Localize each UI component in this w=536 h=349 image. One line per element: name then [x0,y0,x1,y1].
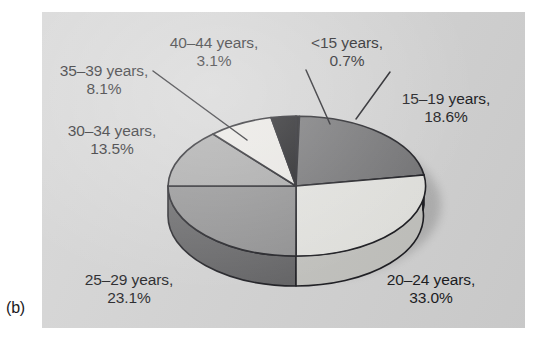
pie-label-25-29-line1: 25–29 years, [85,271,173,288]
pie-label-20-24-line1: 20–24 years, [387,271,475,288]
pie-slice-15-19 [296,116,424,186]
pie-label-25-29: 25–29 years, 23.1% [65,271,193,306]
pie-label-lt15: <15 years, 0.7% [285,34,409,69]
figure-page: 40–44 years, 3.1% <15 years, 0.7% 35–39 … [0,0,536,349]
pie-label-35-39: 35–39 years, 8.1% [40,62,168,97]
chart-panel: 40–44 years, 3.1% <15 years, 0.7% 35–39 … [42,12,525,328]
pie-label-lt15-line2: 0.7% [285,52,409,70]
pie-label-30-34: 30–34 years, 13.5% [48,122,176,157]
pie-top-face [168,116,426,256]
pie-label-40-44-line1: 40–44 years, [170,34,258,51]
pie-label-20-24: 20–24 years, 33.0% [367,271,495,306]
pie-label-15-19-line1: 15–19 years, [402,90,490,107]
pie-label-15-19-line2: 18.6% [382,108,510,126]
pie-label-35-39-line2: 8.1% [40,80,168,98]
pie-label-20-24-line2: 33.0% [367,289,495,307]
pie-label-25-29-line2: 23.1% [65,289,193,307]
pie-label-15-19: 15–19 years, 18.6% [382,90,510,125]
pie-label-35-39-line1: 35–39 years, [60,62,148,79]
pie-label-lt15-line1: <15 years, [311,34,383,51]
pie-label-30-34-line1: 30–34 years, [68,122,156,139]
pie-label-30-34-line2: 13.5% [48,140,176,158]
figure-caption: (b) [6,299,25,317]
